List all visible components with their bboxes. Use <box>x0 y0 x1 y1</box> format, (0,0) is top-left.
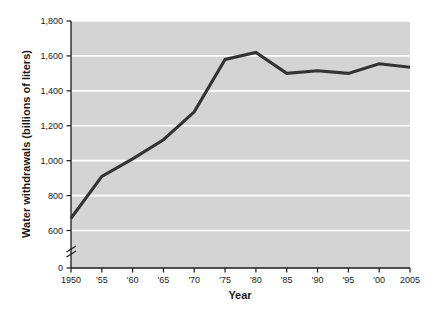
y-tick-label: 800 <box>48 191 63 201</box>
y-tick-label: 0 <box>58 263 63 273</box>
chart-container: 06008001,0001,2001,4001,6001,800 1950'55… <box>0 0 436 310</box>
x-tick-label: 2005 <box>400 275 420 285</box>
y-axis-title: Water withdrawals (billions of liters) <box>20 50 32 238</box>
y-tick-label: 1,600 <box>40 51 63 61</box>
y-tick-label: 1,800 <box>40 16 63 26</box>
x-tick-label: '55 <box>96 275 108 285</box>
y-tick-label: 600 <box>48 226 63 236</box>
y-tick-label: 1,000 <box>40 156 63 166</box>
x-tick-label: '00 <box>373 275 385 285</box>
x-tick-label: '95 <box>342 275 354 285</box>
x-tick-label: '60 <box>127 275 139 285</box>
x-tick-label: '75 <box>219 275 231 285</box>
x-tick-label: '70 <box>188 275 200 285</box>
x-tick-label: 1950 <box>61 275 81 285</box>
y-tick-label: 1,200 <box>40 121 63 131</box>
y-tick-label: 1,400 <box>40 86 63 96</box>
x-tick-label: '85 <box>281 275 293 285</box>
x-axis-title: Year <box>228 289 252 301</box>
line-chart: 06008001,0001,2001,4001,6001,800 1950'55… <box>0 0 436 310</box>
x-tick-label: '80 <box>250 275 262 285</box>
x-tick-label: '90 <box>312 275 324 285</box>
x-tick-label: '65 <box>158 275 170 285</box>
